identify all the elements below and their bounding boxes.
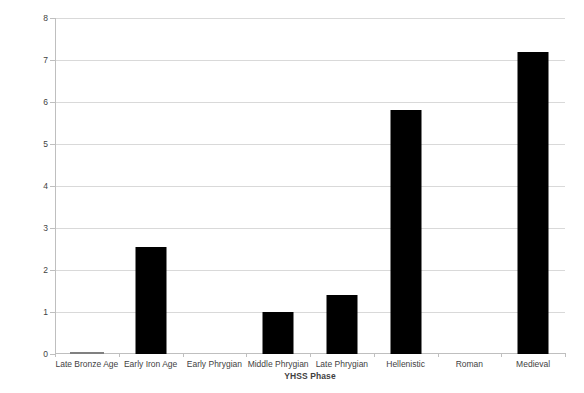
x-category-label: Late Bronze Age xyxy=(55,358,119,370)
y-tick-label: 8 xyxy=(26,13,48,23)
bar-slot xyxy=(310,18,374,354)
x-tick-mark xyxy=(565,353,566,357)
x-tick-mark xyxy=(501,353,502,357)
bar xyxy=(135,247,166,354)
bar-chart: Ratio of bread to hard wheat (by count) … xyxy=(0,0,584,393)
bar-slot xyxy=(246,18,310,354)
bar xyxy=(518,52,549,354)
bar xyxy=(326,295,357,354)
bars-layer xyxy=(55,18,565,354)
y-tick-label: 1 xyxy=(26,307,48,317)
x-tick-mark xyxy=(374,353,375,357)
y-tick-label: 7 xyxy=(26,55,48,65)
x-tick-mark xyxy=(438,353,439,357)
x-tick-mark xyxy=(183,353,184,357)
x-category-label: Late Phrygian xyxy=(310,358,374,370)
y-tick-label: 5 xyxy=(26,139,48,149)
bar-slot xyxy=(119,18,183,354)
y-tick-label: 0 xyxy=(26,349,48,359)
x-axis-title: YHSS Phase xyxy=(55,371,565,381)
x-tick-mark xyxy=(310,353,311,357)
y-tick-label: 2 xyxy=(26,265,48,275)
bar-slot xyxy=(183,18,247,354)
x-tick-mark xyxy=(246,353,247,357)
x-category-label: Early Iron Age xyxy=(119,358,183,370)
bar-slot xyxy=(501,18,565,354)
x-category-label: Hellenistic xyxy=(374,358,438,370)
x-tick-mark xyxy=(55,353,56,357)
bar xyxy=(263,312,294,354)
x-category-label: Roman xyxy=(438,358,502,370)
x-category-label: Medieval xyxy=(501,358,565,370)
y-tick-label: 3 xyxy=(26,223,48,233)
bar-slot xyxy=(55,18,119,354)
bar-slot xyxy=(438,18,502,354)
x-category-label: Early Phrygian xyxy=(183,358,247,370)
bar xyxy=(390,110,421,354)
bar xyxy=(70,352,104,354)
y-tick-label: 4 xyxy=(26,181,48,191)
x-category-label: Middle Phrygian xyxy=(246,358,310,370)
bar-slot xyxy=(374,18,438,354)
x-tick-mark xyxy=(119,353,120,357)
y-tick-label: 6 xyxy=(26,97,48,107)
